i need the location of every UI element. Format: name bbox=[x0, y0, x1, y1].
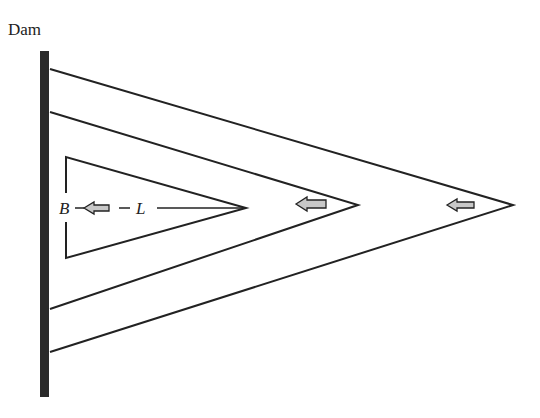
length-label: L bbox=[135, 199, 145, 218]
dam-wall bbox=[40, 51, 49, 397]
flow-arrow-inner-icon bbox=[84, 202, 109, 214]
reservoir-diagram: B L bbox=[0, 0, 540, 418]
flow-arrow-outer-icon bbox=[447, 199, 474, 211]
outer-reservoir-outline bbox=[50, 69, 513, 352]
flow-arrow-middle-icon bbox=[296, 197, 326, 211]
width-label: B bbox=[59, 199, 70, 218]
